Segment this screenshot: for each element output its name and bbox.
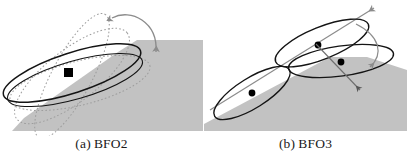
caption-bfo2: (a)BFO2	[0, 136, 203, 152]
center-marker-a	[64, 68, 73, 77]
center-marker-b3	[338, 59, 345, 66]
panel-bfo2: (a)BFO2	[0, 0, 203, 161]
caption-bfo3: (b)BFO3	[204, 136, 407, 152]
panel-bfo3: (b)BFO3	[204, 0, 407, 161]
center-marker-b2	[315, 42, 322, 49]
caption-text-a: BFO2	[94, 136, 128, 151]
center-marker-b1	[249, 90, 256, 97]
figure-root: (a)BFO2	[0, 0, 407, 161]
panel-b-canvas	[204, 0, 407, 136]
caption-text-b: BFO3	[298, 136, 332, 151]
caption-label-b: (b)	[279, 136, 295, 151]
caption-label-a: (a)	[75, 136, 91, 151]
panel-a-canvas	[0, 0, 203, 136]
